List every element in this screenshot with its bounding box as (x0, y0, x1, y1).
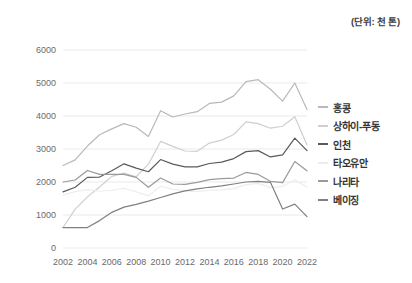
legend-label: 인천 (333, 137, 350, 152)
line-chart: (단위: 천 톤) 0100020003000400050006000 2002… (0, 0, 412, 283)
legend-item-나리타[interactable]: 나리타 (318, 172, 410, 191)
x-tick-label: 2012 (175, 257, 195, 267)
x-tick-label: 2022 (297, 257, 317, 267)
legend-item-홍콩[interactable]: 홍콩 (318, 98, 410, 117)
series-line-홍콩 (63, 80, 307, 166)
legend-label: 타오유안 (333, 155, 368, 170)
y-tick-label: 2000 (10, 177, 56, 187)
y-tick-label: 1000 (10, 210, 56, 220)
legend-swatch-icon (318, 143, 328, 145)
series-line-베이징 (63, 181, 307, 227)
series-line-상하이-푸동 (63, 117, 307, 228)
legend-item-베이징[interactable]: 베이징 (318, 191, 410, 210)
x-tick-label: 2008 (126, 257, 146, 267)
x-tick-label: 2020 (273, 257, 293, 267)
legend-item-상하이-푸동[interactable]: 상하이-푸동 (318, 117, 410, 136)
series-lines (63, 80, 307, 228)
legend-swatch-icon (318, 162, 328, 164)
legend: 홍콩상하이-푸동인천타오유안나리타베이징 (318, 98, 410, 209)
gridlines (63, 50, 307, 248)
legend-swatch-icon (318, 180, 328, 182)
x-tick-label: 2010 (151, 257, 171, 267)
legend-label: 상하이-푸동 (333, 118, 380, 133)
x-tick-label: 2014 (199, 257, 219, 267)
x-tick-label: 2004 (77, 257, 97, 267)
x-axis: 2002200420062008201020122014201620182020… (0, 252, 412, 272)
y-tick-label: 6000 (10, 45, 56, 55)
x-tick-label: 2006 (102, 257, 122, 267)
x-tick-label: 2002 (53, 257, 73, 267)
legend-swatch-icon (318, 125, 328, 127)
legend-label: 베이징 (333, 192, 359, 207)
y-tick-label: 4000 (10, 111, 56, 121)
legend-item-인천[interactable]: 인천 (318, 135, 410, 154)
legend-item-타오유안[interactable]: 타오유안 (318, 154, 410, 173)
legend-label: 홍콩 (333, 100, 350, 115)
legend-label: 나리타 (333, 174, 359, 189)
x-tick-label: 2018 (248, 257, 268, 267)
y-tick-label: 5000 (10, 78, 56, 88)
legend-swatch-icon (318, 199, 328, 201)
y-axis: 0100020003000400050006000 (8, 0, 56, 283)
legend-swatch-icon (318, 106, 328, 108)
y-tick-label: 3000 (10, 144, 56, 154)
x-tick-label: 2016 (224, 257, 244, 267)
